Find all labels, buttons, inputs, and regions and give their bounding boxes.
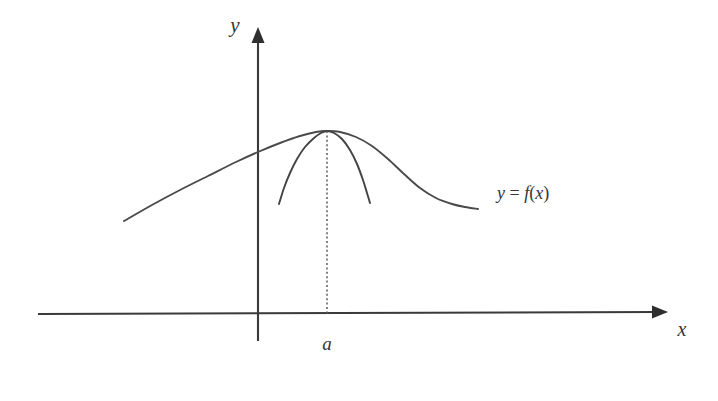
point-label-a: a (322, 333, 332, 354)
x-axis-group: x (38, 306, 687, 341)
x-axis-line (38, 312, 659, 314)
function-curve-inner (279, 131, 370, 204)
function-label-argument: x (534, 183, 543, 203)
x-axis-label: x (677, 318, 687, 340)
curves-group (124, 131, 478, 221)
y-axis-arrowhead-icon (252, 27, 265, 43)
function-label-lhs: y (495, 183, 505, 203)
figure-canvas: x y a y = f(x) (0, 0, 718, 401)
function-label-operator: = (505, 183, 524, 203)
function-label: y = f(x) (495, 183, 549, 204)
function-label-close-paren: ) (543, 183, 549, 204)
x-axis-arrowhead-icon (652, 306, 668, 319)
math-figure: x y a y = f(x) (0, 0, 718, 401)
function-curve-outer (124, 131, 478, 221)
y-axis-group: y (228, 13, 264, 341)
y-axis-label: y (228, 13, 240, 37)
